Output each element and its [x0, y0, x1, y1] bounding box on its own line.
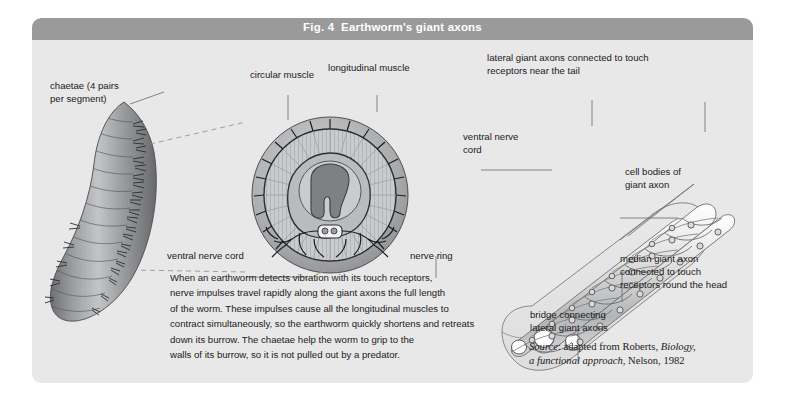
earthworm-body-illustration	[45, 102, 156, 321]
chaetae-leader-line	[130, 92, 164, 104]
source-work-subtitle: a functional approach	[529, 355, 623, 366]
label-nerve-ring: nerve ring	[410, 249, 453, 262]
label-lateral-giant-axons: lateral giant axons connected to touch r…	[487, 51, 649, 77]
label-median-giant-axon: median giant axon connected to touch rec…	[620, 252, 727, 292]
figure-title: Fig. 4 Earthworm's giant axons	[32, 21, 753, 33]
figure-title-bar: Fig. 4 Earthworm's giant axons	[32, 18, 753, 40]
figure-container: Fig. 4 Earthworm's giant axons	[32, 18, 753, 383]
label-longitudinal-muscle: longitudinal muscle	[328, 61, 410, 74]
label-bridge: bridge connecting lateral giant axons	[530, 308, 608, 334]
ventral-nerve-cord-node	[318, 225, 342, 238]
label-ventral-nerve-cord-right: ventral nerve cord	[463, 130, 518, 156]
label-circular-muscle: circular muscle	[250, 68, 314, 81]
label-ventral-nerve-cord-cross: ventral nerve cord	[167, 249, 244, 262]
source-prefix: Source	[529, 341, 558, 352]
label-chaetae: chaetae (4 pairs per segment)	[50, 79, 119, 105]
source-work-title: Biology,	[661, 341, 696, 352]
label-cell-bodies: cell bodies of giant axon	[625, 165, 681, 191]
cross-section-diagram	[252, 117, 408, 273]
source-colon: : adapted from Roberts,	[558, 341, 661, 352]
figure-body-text: When an earthworm detects vibration with…	[170, 270, 500, 362]
source-citation: Source: adapted from Roberts, Biology, a…	[529, 340, 744, 368]
source-publisher: , Nelson, 1982	[623, 355, 685, 366]
